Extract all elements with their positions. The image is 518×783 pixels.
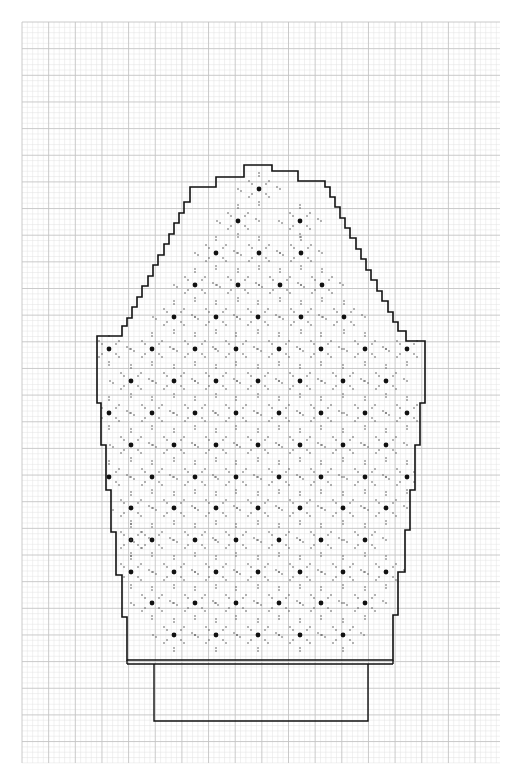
small-dot-stitch: [173, 284, 175, 286]
small-dot-stitch: [346, 414, 348, 416]
small-dot-stitch: [265, 183, 267, 185]
small-dot-stitch: [197, 254, 199, 256]
small-dot-stitch: [225, 420, 227, 422]
small-dot-stitch: [169, 346, 171, 348]
small-dot-stitch: [214, 539, 216, 541]
small-dot-stitch: [278, 507, 280, 509]
small-dot-stitch: [133, 604, 135, 606]
small-dot-stitch: [184, 610, 186, 612]
small-dot-stitch: [194, 552, 196, 554]
small-dot-stitch: [327, 544, 329, 546]
small-dot-stitch: [364, 523, 366, 525]
small-dot-stitch: [183, 436, 185, 438]
small-dot-stitch: [228, 607, 230, 609]
small-dot-stitch: [151, 526, 153, 528]
small-dot-stitch: [395, 499, 397, 501]
small-dot-stitch: [184, 276, 186, 278]
small-dot-stitch: [289, 515, 291, 517]
small-dot-stitch: [123, 439, 125, 441]
bobble-dot-stitch: [150, 475, 155, 480]
small-dot-stitch: [364, 396, 366, 398]
small-dot-stitch: [151, 489, 153, 491]
small-dot-stitch: [233, 569, 235, 571]
small-dot-stitch: [385, 412, 387, 414]
small-dot-stitch: [108, 396, 110, 398]
small-dot-stitch: [225, 436, 227, 438]
small-dot-stitch: [399, 481, 401, 483]
small-dot-stitch: [309, 452, 311, 454]
small-dot-stitch: [208, 502, 210, 504]
small-dot-stitch: [253, 537, 255, 539]
small-dot-stitch: [158, 343, 160, 345]
small-dot-stitch: [212, 346, 214, 348]
small-dot-stitch: [247, 579, 249, 581]
small-dot-stitch: [151, 332, 153, 334]
small-dot-stitch: [166, 576, 168, 578]
small-dot-stitch: [236, 380, 238, 382]
small-dot-stitch: [313, 481, 315, 483]
small-dot-stitch: [332, 499, 334, 501]
small-dot-stitch: [275, 632, 277, 634]
small-dot-stitch: [271, 471, 273, 473]
small-dot-stitch: [278, 444, 280, 446]
small-dot-stitch: [257, 650, 259, 652]
small-dot-stitch: [245, 468, 247, 470]
small-dot-stitch: [197, 382, 199, 384]
small-dot-stitch: [130, 494, 132, 496]
small-dot-stitch: [144, 544, 146, 546]
small-dot-stitch: [320, 526, 322, 528]
small-dot-stitch: [225, 324, 227, 326]
small-dot-stitch: [307, 247, 309, 249]
small-dot-stitch: [184, 547, 186, 549]
small-dot-stitch: [385, 393, 387, 395]
small-dot-stitch: [194, 335, 196, 337]
small-dot-stitch: [123, 375, 125, 377]
small-dot-stitch: [353, 324, 355, 326]
small-dot-stitch: [341, 476, 343, 478]
small-dot-stitch: [215, 367, 217, 369]
small-dot-stitch: [392, 576, 394, 578]
small-dot-stitch: [385, 558, 387, 560]
bobble-dot-stitch: [363, 475, 368, 480]
small-dot-stitch: [267, 626, 269, 628]
small-dot-stitch: [137, 534, 139, 536]
bobble-dot-stitch: [405, 411, 410, 416]
small-dot-stitch: [331, 276, 333, 278]
small-dot-stitch: [115, 343, 117, 345]
small-dot-stitch: [264, 321, 266, 323]
bobble-dot-stitch: [341, 633, 346, 638]
small-dot-stitch: [225, 626, 227, 628]
small-dot-stitch: [320, 335, 322, 337]
small-dot-stitch: [233, 314, 235, 316]
small-dot-stitch: [112, 446, 114, 448]
small-dot-stitch: [208, 311, 210, 313]
small-dot-stitch: [217, 604, 219, 606]
small-dot-stitch: [346, 541, 348, 543]
small-dot-stitch: [123, 534, 125, 536]
small-dot-stitch: [310, 420, 312, 422]
small-dot-stitch: [233, 505, 235, 507]
small-dot-stitch: [151, 460, 153, 462]
small-dot-stitch: [289, 292, 291, 294]
small-dot-stitch: [155, 636, 157, 638]
small-dot-stitch: [184, 484, 186, 486]
bobble-dot-stitch: [319, 347, 324, 352]
small-dot-stitch: [235, 396, 237, 398]
small-dot-stitch: [235, 618, 237, 620]
small-dot-stitch: [201, 597, 203, 599]
bobble-dot-stitch: [320, 283, 325, 288]
small-dot-stitch: [173, 602, 175, 604]
small-dot-stitch: [318, 314, 320, 316]
small-dot-stitch: [310, 484, 312, 486]
small-dot-stitch: [201, 471, 203, 473]
bobble-dot-stitch: [299, 251, 304, 256]
bobble-dot-stitch: [256, 379, 261, 384]
small-dot-stitch: [215, 491, 217, 493]
small-dot-stitch: [342, 284, 344, 286]
small-dot-stitch: [306, 449, 308, 451]
small-dot-stitch: [299, 364, 301, 366]
small-dot-stitch: [260, 604, 262, 606]
small-dot-stitch: [228, 407, 230, 409]
small-dot-stitch: [123, 566, 125, 568]
small-dot-stitch: [375, 372, 377, 374]
